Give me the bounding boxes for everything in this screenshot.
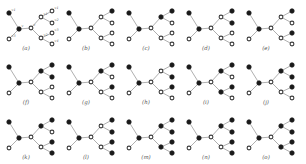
filled-node-v2 (77, 136, 81, 140)
hollow-node-v4 (29, 26, 33, 30)
tree-edge (249, 122, 259, 138)
panel-m: (m) (127, 118, 174, 160)
filled-node-v2 (257, 27, 261, 31)
hollow-node-v4 (269, 80, 273, 84)
filled-node-l3 (110, 85, 114, 89)
filled-node-l1 (50, 118, 54, 122)
vertex-label: v2 (55, 18, 59, 22)
filled-node-v2 (137, 81, 141, 85)
hollow-node-l4 (170, 42, 174, 46)
panel-label: (b) (82, 45, 90, 51)
filled-node-l3 (290, 140, 294, 144)
filled-node-v1 (7, 65, 11, 69)
hollow-node-v6 (159, 90, 163, 94)
hollow-node-l4 (230, 42, 234, 46)
filled-node-v2 (257, 136, 261, 140)
hollow-node-v3 (247, 146, 251, 150)
hollow-node-v6 (219, 145, 223, 149)
hollow-node-v4 (269, 26, 273, 30)
filled-node-l2 (170, 75, 174, 79)
hollow-node-v4 (209, 135, 213, 139)
panel-label: (m) (141, 154, 151, 160)
hollow-node-v6 (39, 145, 43, 149)
filled-node-v2 (77, 27, 81, 31)
tree-edge (249, 13, 259, 29)
hollow-node-v4 (149, 80, 153, 84)
tree-edge (9, 13, 19, 29)
filled-node-v1 (67, 11, 71, 15)
hollow-node-l4 (110, 42, 114, 46)
filled-node-v5 (159, 124, 163, 128)
panel-label: (f) (23, 99, 29, 106)
panel-o: (o) (247, 118, 294, 160)
panel-label: (k) (22, 154, 30, 160)
tree-edge (189, 13, 199, 29)
vertex-label: v1 (55, 6, 59, 10)
hollow-node-l2 (50, 130, 54, 134)
filled-node-v1 (127, 11, 131, 15)
panel-label: (l) (83, 154, 89, 160)
hollow-node-l3 (230, 31, 234, 35)
filled-node-l4 (290, 151, 294, 155)
filled-node-v5 (159, 15, 163, 19)
hollow-node-l2 (230, 75, 234, 79)
tree-edge (129, 67, 139, 83)
filled-node-l1 (290, 9, 294, 13)
hollow-node-v3 (247, 37, 251, 41)
panel-label: (a) (22, 45, 30, 51)
hollow-node-v3 (187, 91, 191, 95)
filled-node-l1 (110, 63, 114, 67)
hollow-node-l4 (170, 96, 174, 100)
filled-node-v2 (197, 136, 201, 140)
panel-label: (n) (202, 154, 210, 160)
tree-edge (69, 13, 79, 29)
filled-node-l2 (290, 130, 294, 134)
filled-node-l1 (230, 118, 234, 122)
panel-label: (i) (203, 99, 209, 105)
filled-node-v6 (279, 145, 283, 149)
panel-label: (g) (82, 99, 90, 106)
filled-node-l4 (170, 151, 174, 155)
filled-node-l1 (230, 9, 234, 13)
panel-a: v1vv3vv1v2v1v2v3v4(a) (7, 6, 59, 51)
filled-node-v2 (137, 27, 141, 31)
hollow-node-l2 (290, 21, 294, 25)
filled-node-l2 (230, 21, 234, 25)
tree-edge (189, 122, 199, 138)
hollow-node-v5 (99, 15, 103, 19)
tree-edge (69, 122, 79, 138)
hollow-node-v6 (279, 36, 283, 40)
filled-node-v1 (67, 65, 71, 69)
panel-label: (h) (142, 99, 150, 105)
panel-label: (o) (262, 154, 270, 160)
hollow-node-v6 (99, 145, 103, 149)
filled-node-v1 (187, 65, 191, 69)
filled-node-l1 (110, 9, 114, 13)
filled-node-l1 (230, 63, 234, 67)
filled-node-l3 (110, 140, 114, 144)
filled-node-l4 (50, 151, 54, 155)
hollow-node-v6 (279, 90, 283, 94)
hollow-node-v4 (89, 80, 93, 84)
filled-node-l1 (290, 63, 294, 67)
filled-node-l3 (170, 140, 174, 144)
hollow-node-l2 (110, 21, 114, 25)
hollow-node-v4 (29, 135, 33, 139)
hollow-node-l3 (110, 31, 114, 35)
hollow-node-v5 (39, 15, 43, 19)
hollow-node-l4 (230, 96, 234, 100)
vertex-label: v3 (12, 34, 16, 38)
hollow-node-v3 (7, 91, 11, 95)
hollow-node-v3 (67, 91, 71, 95)
filled-node-l1 (110, 118, 114, 122)
vertex-label: v1 (12, 8, 16, 12)
hollow-node-l2 (170, 21, 174, 25)
hollow-node-v3 (187, 37, 191, 41)
hollow-node-v3 (247, 91, 251, 95)
hollow-node-v5 (279, 15, 283, 19)
hollow-node-v5 (159, 69, 163, 73)
tree-edge (129, 122, 139, 138)
hollow-node-v6 (39, 36, 43, 40)
filled-node-v5 (279, 69, 283, 73)
panel-d: (d) (187, 9, 234, 51)
